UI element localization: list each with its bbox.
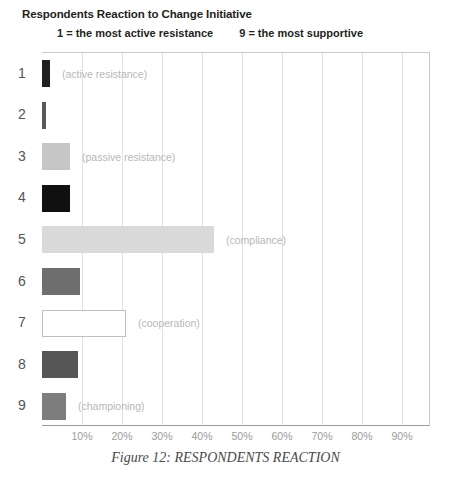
x-tick-label-60: 60% — [260, 430, 304, 442]
y-tick-label-8: 8 — [12, 356, 32, 372]
bar-9 — [42, 393, 66, 420]
x-tick-label-80: 80% — [340, 430, 384, 442]
x-tick-label-10: 10% — [60, 430, 104, 442]
bar-row: (compliance) — [42, 219, 429, 261]
bar-row — [42, 95, 429, 137]
chart-subtitle: 1 = the most active resistance9 = the mo… — [57, 27, 363, 39]
x-tick-label-50: 50% — [220, 430, 264, 442]
bar-7 — [42, 310, 126, 337]
bar-5 — [42, 226, 214, 253]
bar-row: (passive resistance) — [42, 136, 429, 178]
bar-note-5: (compliance) — [226, 234, 286, 246]
bar-note-1: (active resistance) — [62, 68, 147, 80]
figure-caption: Figure 12: RESPONDENTS REACTION — [0, 450, 451, 466]
y-tick-label-6: 6 — [12, 273, 32, 289]
bar-note-9: (championing) — [78, 400, 145, 412]
chart-title: Respondents Reaction to Change Initiativ… — [22, 8, 252, 20]
subtitle-right: 9 = the most supportive — [239, 27, 363, 39]
bar-row — [42, 261, 429, 303]
subtitle-left: 1 = the most active resistance — [57, 27, 213, 39]
bar-note-3: (passive resistance) — [82, 151, 175, 163]
y-tick-label-7: 7 — [12, 314, 32, 330]
bar-note-7: (cooperation) — [138, 317, 200, 329]
bar-8 — [42, 351, 78, 378]
bar-3 — [42, 143, 70, 170]
bar-row — [42, 344, 429, 386]
bar-4 — [42, 185, 70, 212]
bar-2 — [42, 102, 46, 129]
x-tick-label-40: 40% — [180, 430, 224, 442]
y-tick-label-1: 1 — [12, 65, 32, 81]
y-tick-label-4: 4 — [12, 189, 32, 205]
bar-6 — [42, 268, 80, 295]
y-tick-label-5: 5 — [12, 231, 32, 247]
bar-row — [42, 178, 429, 220]
figure-respondents-reaction: Respondents Reaction to Change Initiativ… — [0, 0, 451, 477]
y-tick-label-2: 2 — [12, 106, 32, 122]
x-tick-label-20: 20% — [100, 430, 144, 442]
bar-1 — [42, 60, 50, 87]
bar-row: (active resistance) — [42, 53, 429, 95]
bar-row: (cooperation) — [42, 302, 429, 344]
x-tick-label-30: 30% — [140, 430, 184, 442]
x-tick-label-90: 90% — [380, 430, 424, 442]
x-tick-label-70: 70% — [300, 430, 344, 442]
bar-row: (championing) — [42, 385, 429, 427]
y-tick-label-3: 3 — [12, 148, 32, 164]
y-tick-label-9: 9 — [12, 397, 32, 413]
plot-area: (active resistance)(passive resistance)(… — [42, 52, 430, 426]
